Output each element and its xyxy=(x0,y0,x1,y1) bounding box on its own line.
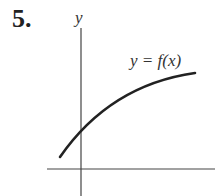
graph: y y = f(x) xyxy=(0,0,221,196)
y-axis-label: y xyxy=(73,8,83,27)
curve-label: y = f(x) xyxy=(128,51,181,70)
curve-f xyxy=(60,73,195,157)
